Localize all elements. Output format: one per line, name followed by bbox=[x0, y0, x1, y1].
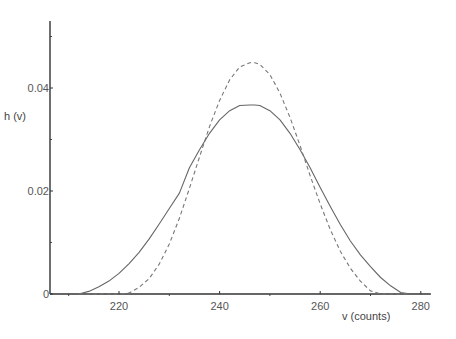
x-tick-label: 280 bbox=[412, 300, 430, 312]
x-tick-label: 260 bbox=[311, 300, 329, 312]
dashed-curve bbox=[79, 63, 411, 294]
chart: 22024026028000.020.04 h (v) v (counts) bbox=[0, 0, 456, 339]
y-tick-label: 0 bbox=[43, 288, 49, 300]
ticks: 22024026028000.020.04 bbox=[28, 37, 430, 313]
axes bbox=[50, 21, 431, 294]
series bbox=[79, 63, 411, 294]
y-axis-label: h (v) bbox=[4, 110, 26, 122]
x-tick-label: 240 bbox=[210, 300, 228, 312]
y-tick-label: 0.04 bbox=[28, 82, 49, 94]
solid-curve bbox=[79, 105, 411, 294]
x-axis-label: v (counts) bbox=[342, 310, 390, 322]
x-tick-label: 220 bbox=[110, 300, 128, 312]
y-tick-label: 0.02 bbox=[28, 185, 49, 197]
